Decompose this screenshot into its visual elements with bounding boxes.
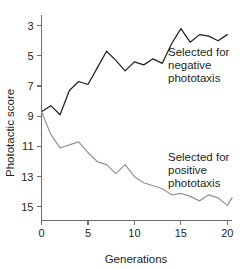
y-tick-label: 13 — [21, 171, 33, 183]
y-tick-label: 3 — [27, 20, 33, 32]
chart-svg: 3579111315 05101520 Phototactic score Ge… — [0, 0, 244, 269]
y-axis-title: Phototactic score — [4, 89, 16, 177]
x-tick-label: 20 — [221, 227, 233, 239]
x-tick-label: 10 — [128, 227, 140, 239]
phototactic-score-chart: 3579111315 05101520 Phototactic score Ge… — [0, 0, 244, 269]
x-tick-label: 5 — [85, 227, 91, 239]
positive-annotation-line2: positive — [168, 164, 207, 176]
x-axis-title: Generations — [105, 253, 168, 265]
y-tick-label: 5 — [27, 50, 33, 62]
negative-annotation-line3: phototaxis — [168, 72, 221, 84]
chart-background — [0, 0, 244, 269]
y-tick-label: 7 — [27, 80, 33, 92]
y-tick-label: 11 — [22, 140, 33, 152]
y-tick-label: 9 — [27, 110, 33, 122]
y-tick-label: 15 — [21, 201, 33, 213]
x-tick-label: 0 — [38, 227, 44, 239]
negative-annotation-line1: Selected for — [168, 46, 230, 58]
positive-annotation-line1: Selected for — [168, 151, 230, 163]
positive-annotation-line3: phototaxis — [168, 177, 221, 189]
negative-annotation-line2: negative — [168, 59, 211, 71]
x-tick-label: 15 — [175, 227, 187, 239]
